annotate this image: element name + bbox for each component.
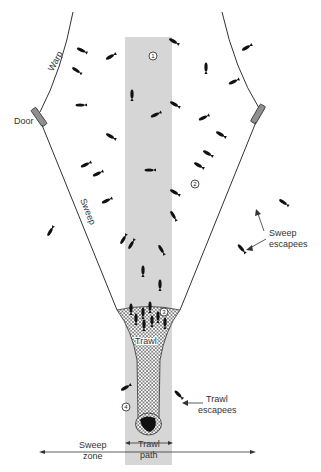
fish-icon — [76, 103, 88, 106]
fish-icon — [174, 390, 184, 400]
trawl-sweep-diagram: 1234 Warp Door Sweep Sweep escapees Traw… — [0, 0, 321, 472]
warp-label: Warp — [46, 50, 65, 73]
trawl-path-label-line1: Trawl — [138, 439, 160, 449]
fish-icon — [204, 63, 207, 75]
sweep-zone-label-line2: zone — [83, 451, 103, 461]
sweep-escapees-arrow-down — [250, 239, 266, 248]
arrowhead-icon — [246, 245, 253, 251]
fish-icon — [228, 78, 240, 86]
trawl-path-label-line2: path — [140, 450, 158, 460]
arrowhead-icon — [182, 400, 188, 406]
sweep-escapees-arrow-up — [258, 214, 264, 231]
trawl-escapees-label-line2: escapees — [198, 405, 237, 415]
door-label: Door — [14, 116, 34, 126]
zone-marker-1: 1 — [149, 52, 157, 60]
fish-icon — [237, 244, 247, 255]
arrowhead-icon — [250, 450, 256, 454]
fish-icon — [46, 225, 55, 237]
warp-line-right — [222, 12, 259, 108]
fish-icon — [105, 132, 117, 141]
sweep-line-left — [42, 125, 117, 310]
fish-icon — [105, 52, 117, 61]
arrowhead-icon — [39, 450, 45, 454]
fish-icon — [202, 149, 214, 158]
fish-icon — [80, 161, 92, 169]
zone-marker-2: 2 — [191, 180, 199, 188]
zone-marker-3: 3 — [160, 308, 168, 316]
sweep-escapees-label-line1: Sweep — [269, 228, 297, 238]
fish-icon — [278, 198, 289, 207]
fish-icon — [101, 197, 113, 205]
trawl-escapees-label-line1: Trawl — [206, 394, 228, 404]
zone-marker-4: 4 — [122, 403, 130, 411]
sweep-escapees-label-line2: escapees — [269, 239, 308, 249]
sweep-line-right — [180, 122, 256, 310]
fish-icon — [241, 43, 253, 52]
arrowhead-icon — [255, 209, 261, 216]
fish-icon — [198, 114, 210, 122]
fish-icon — [76, 47, 88, 55]
fish-icon — [92, 170, 104, 178]
sweep-zone-label-line1: Sweep — [79, 440, 107, 450]
fish-icon — [71, 66, 82, 75]
fish-icon — [215, 130, 227, 139]
trawl-label: Trawl — [135, 336, 157, 346]
fish-icon — [193, 161, 205, 170]
